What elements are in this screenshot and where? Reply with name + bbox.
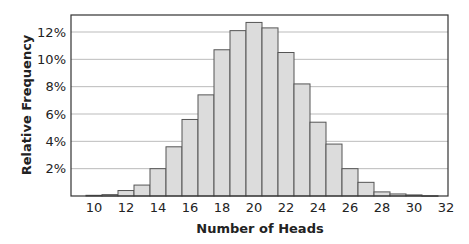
histogram-bar: [278, 53, 294, 197]
y-axis-ticks: 2%4%6%8%10%12%: [37, 25, 66, 177]
histogram-bar: [166, 147, 182, 196]
x-tick-label: 22: [278, 200, 295, 215]
y-axis-title: Relative Frequency: [19, 34, 34, 175]
x-axis-ticks: 101214161820222426283032: [86, 200, 455, 215]
y-tick-label: 10%: [37, 52, 66, 67]
histogram-bar: [182, 119, 198, 196]
x-tick-label: 16: [182, 200, 199, 215]
bars: [86, 22, 438, 196]
y-tick-label: 2%: [45, 161, 66, 176]
histogram-chart: 2%4%6%8%10%12% 101214161820222426283032 …: [0, 0, 469, 244]
x-tick-label: 20: [246, 200, 263, 215]
y-tick-label: 12%: [37, 25, 66, 40]
x-axis-title: Number of Heads: [196, 221, 324, 236]
x-tick-label: 32: [438, 200, 455, 215]
histogram-bar: [134, 185, 150, 196]
x-tick-label: 18: [214, 200, 231, 215]
histogram-bar: [230, 31, 246, 196]
y-tick-label: 4%: [45, 134, 66, 149]
histogram-bar: [214, 50, 230, 196]
histogram-bar: [294, 84, 310, 196]
x-tick-label: 28: [374, 200, 391, 215]
y-tick-label: 6%: [45, 107, 66, 122]
y-tick-label: 8%: [45, 79, 66, 94]
histogram-bar: [198, 95, 214, 196]
x-tick-label: 26: [342, 200, 359, 215]
histogram-bar: [246, 22, 262, 196]
histogram-bar: [150, 169, 166, 196]
x-tick-label: 24: [310, 200, 327, 215]
histogram-bar: [118, 191, 134, 196]
histogram-bar: [358, 182, 374, 196]
x-tick-label: 30: [406, 200, 423, 215]
histogram-bar: [262, 28, 278, 196]
histogram-bar: [342, 169, 358, 196]
x-tick-label: 10: [86, 200, 103, 215]
x-tick-label: 12: [118, 200, 135, 215]
x-tick-label: 14: [150, 200, 167, 215]
histogram-bar: [310, 122, 326, 196]
histogram-bar: [374, 192, 390, 196]
histogram-bar: [326, 144, 342, 196]
